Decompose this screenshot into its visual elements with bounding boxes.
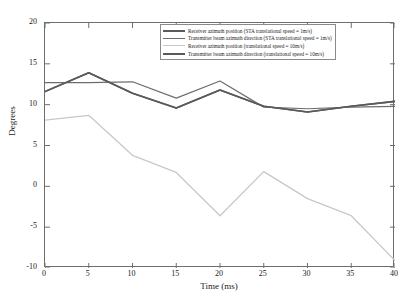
x-tick-label: 30: [303, 269, 311, 279]
legend-color-swatch: [163, 38, 185, 39]
x-tick-label: 20: [215, 269, 223, 279]
y-tick-label: 0: [33, 181, 37, 189]
chart-legend: Receiver azimuth position (STA translati…: [160, 24, 336, 60]
series-line: [45, 115, 395, 260]
series-line: [45, 73, 395, 112]
y-tick-label: -10: [26, 263, 37, 271]
y-tick-label: 10: [29, 100, 37, 108]
legend-item: Transmitter beam azimuth direction (tran…: [163, 50, 332, 58]
x-tick-label: 15: [171, 269, 179, 279]
y-axis-title: Degrees: [7, 91, 17, 151]
y-tick-label: -5: [30, 222, 37, 230]
legend-label: Transmitter beam azimuth direction (tran…: [188, 51, 324, 57]
series-line: [45, 81, 395, 109]
legend-color-swatch: [163, 53, 185, 55]
y-tick-label: 15: [29, 59, 37, 67]
x-axis-title: Time (ms): [44, 281, 394, 291]
legend-label: Receiver azimuth position (translational…: [188, 43, 304, 49]
x-tick-label: 0: [42, 269, 46, 279]
series-line: [45, 73, 395, 112]
legend-item: Transmitter beam azimuth direction (STA …: [163, 35, 332, 43]
legend-item: Receiver azimuth position (STA translati…: [163, 27, 332, 35]
x-tick-label: 5: [86, 269, 90, 279]
figure-canvas: 20151050-5-10 Degrees 0510152025303540 T…: [0, 0, 407, 301]
legend-color-swatch: [163, 45, 185, 46]
x-tick-label: 25: [259, 269, 267, 279]
y-tick-label: 20: [29, 18, 37, 26]
legend-label: Receiver azimuth position (STA translati…: [188, 28, 312, 34]
legend-label: Transmitter beam azimuth direction (STA …: [188, 35, 332, 41]
x-tick-label: 10: [128, 269, 136, 279]
x-tick-label: 35: [346, 269, 354, 279]
legend-item: Receiver azimuth position (translational…: [163, 42, 332, 50]
legend-color-swatch: [163, 30, 185, 32]
x-tick-label: 40: [390, 269, 398, 279]
y-tick-label: 5: [33, 141, 37, 149]
